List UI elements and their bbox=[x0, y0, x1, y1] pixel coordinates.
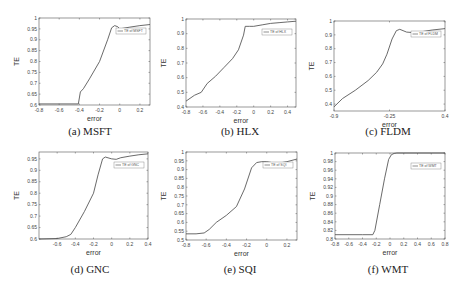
y-tick-label: 0.82 bbox=[323, 227, 333, 233]
y-tick-label: 0.96 bbox=[323, 167, 333, 173]
y-tick-label: 0.88 bbox=[323, 201, 333, 207]
x-tick-label: -0.2 bbox=[372, 241, 381, 247]
x-tick-label: -0.4 bbox=[358, 241, 367, 247]
subplot-f-caption: (f) WMT bbox=[338, 263, 438, 275]
x-tick-label: 0.8 bbox=[442, 241, 449, 247]
x-tick-label: -0.8 bbox=[331, 241, 340, 247]
y-tick-label: 1 bbox=[330, 150, 333, 156]
y-tick-label: 0.84 bbox=[323, 219, 333, 225]
x-tick-label: 0 bbox=[389, 241, 392, 247]
y-axis-label: TE bbox=[309, 191, 316, 200]
y-tick-label: 0.8 bbox=[326, 236, 333, 242]
y-tick-label: 0.98 bbox=[323, 158, 333, 164]
subplot-f-wmt: -0.8-0.6-0.4-0.200.20.40.60.80.80.820.84… bbox=[0, 0, 463, 287]
y-tick-label: 0.92 bbox=[323, 184, 333, 190]
x-tick-label: 0.6 bbox=[428, 241, 435, 247]
legend: TE of WMT bbox=[411, 163, 441, 169]
x-tick-label: 0.2 bbox=[400, 241, 407, 247]
subplot-f-plot: -0.8-0.6-0.4-0.200.20.40.60.80.80.820.84… bbox=[0, 0, 463, 287]
y-tick-label: 0.86 bbox=[323, 210, 333, 216]
x-tick-label: -0.6 bbox=[344, 241, 353, 247]
y-tick-label: 0.94 bbox=[323, 176, 333, 182]
x-axis-label: error bbox=[383, 249, 398, 256]
x-tick-label: 0.4 bbox=[414, 241, 421, 247]
y-tick-label: 0.9 bbox=[326, 193, 333, 199]
legend-label: TE of WMT bbox=[419, 164, 438, 168]
